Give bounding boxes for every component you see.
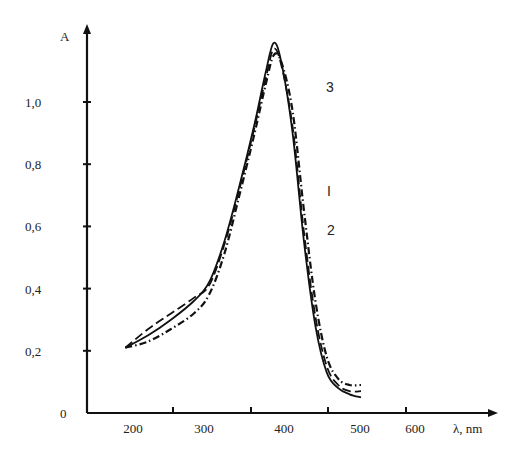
series-I-line <box>125 43 361 398</box>
y-tick-label: 0,8 <box>25 157 41 172</box>
series-3-line <box>125 53 361 385</box>
y-tick-label: 0,2 <box>25 344 41 359</box>
curve-label-I: I <box>327 183 331 199</box>
x-tick-label: 200 <box>123 421 143 436</box>
y-tick-label: 0,4 <box>25 282 42 297</box>
x-tick-label: 500 <box>350 421 370 436</box>
series-2-line <box>125 49 361 392</box>
y-axis-arrow-icon <box>83 24 91 34</box>
y-axis-label: A <box>60 29 70 44</box>
curve-label-3: 3 <box>326 79 334 95</box>
y-tick-label: 0,6 <box>25 219 42 234</box>
x-ticks: 200300400500600 <box>123 407 425 436</box>
x-axis-arrow-icon <box>488 409 498 417</box>
curves <box>125 43 361 398</box>
curve-labels: 3I2 <box>326 79 335 238</box>
x-tick-label: 600 <box>405 421 425 436</box>
absorption-spectrum-chart: A λ, nm 00,20,40,60,81,0 200300400500600… <box>0 0 510 460</box>
x-tick-label: 400 <box>274 421 294 436</box>
y-tick-label: 1,0 <box>25 95 41 110</box>
x-tick-label: 300 <box>194 421 214 436</box>
y-ticks: 00,20,40,60,81,0 <box>25 95 91 421</box>
axes <box>83 24 498 417</box>
y-tick-label: 0 <box>60 406 67 421</box>
curve-label-2: 2 <box>327 222 335 238</box>
x-axis-label: λ, nm <box>453 421 482 436</box>
